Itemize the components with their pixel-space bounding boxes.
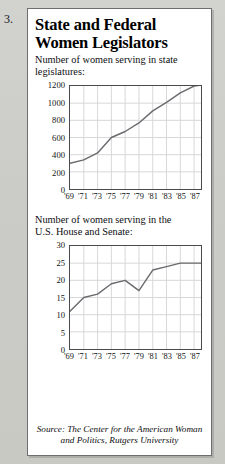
x-tick-label: '87 — [190, 192, 200, 201]
chart-2-line-svg — [70, 246, 201, 349]
chart-1-title: Number of women serving in state legisla… — [35, 54, 204, 77]
y-tick-label: 30 — [56, 240, 65, 250]
y-tick-label: 800 — [52, 115, 65, 125]
x-tick-label: '81 — [148, 192, 158, 201]
x-tick-label: '79 — [134, 352, 144, 361]
x-tick-label: '73 — [92, 352, 102, 361]
chart-2-x-axis-labels: '69'71'73'75'77'79'81'83'85'87 — [69, 351, 202, 367]
headline-line-1: State and Federal — [35, 15, 156, 34]
chart-1-x-axis-labels: '69'71'73'75'77'79'81'83'85'87 — [69, 191, 202, 207]
chart-1-plot-area — [69, 85, 202, 190]
infographic-panel: State and Federal Women Legislators Numb… — [27, 8, 212, 456]
chart-1-line-svg — [70, 86, 201, 189]
y-tick-label: 1200 — [48, 80, 65, 90]
x-tick-label: '69 — [64, 352, 74, 361]
chart-2-y-axis-labels: 051015202530 — [35, 240, 67, 368]
chart-2-title-line-1: Number of women serving in the — [35, 214, 171, 225]
chart-1-y-axis-labels: 020040060080010001200 — [35, 80, 67, 208]
x-tick-label: '71 — [78, 352, 88, 361]
x-tick-label: '71 — [78, 192, 88, 201]
y-tick-label: 400 — [52, 150, 65, 160]
y-tick-label: 600 — [52, 133, 65, 143]
x-tick-label: '79 — [134, 192, 144, 201]
y-tick-label: 10 — [56, 310, 65, 320]
page-background: 3. State and Federal Women Legislators N… — [0, 0, 225, 464]
x-tick-label: '85 — [176, 352, 186, 361]
chart-2-title-line-2: U.S. House and Senate: — [35, 226, 204, 238]
x-tick-label: '85 — [176, 192, 186, 201]
x-tick-label: '83 — [162, 352, 172, 361]
y-tick-label: 25 — [56, 258, 65, 268]
chart-2-plot-area — [69, 245, 202, 350]
chart-state-legislatures: 020040060080010001200 '69'71'73'75'77'79… — [35, 80, 206, 208]
x-tick-label: '83 — [162, 192, 172, 201]
chart-1-title-line-1: Number of women serving in state — [35, 54, 178, 65]
x-tick-label: '69 — [64, 192, 74, 201]
source-line-2: and Politics, Rutgers University — [35, 435, 204, 446]
x-tick-label: '73 — [92, 192, 102, 201]
x-tick-label: '77 — [120, 352, 130, 361]
x-tick-label: '87 — [190, 352, 200, 361]
source-note: Source: The Center for the American Woma… — [35, 424, 204, 446]
y-tick-label: 1000 — [48, 98, 65, 108]
chart-house-and-senate: 051015202530 '69'71'73'75'77'79'81'83'85… — [35, 240, 206, 368]
x-tick-label: '75 — [106, 352, 116, 361]
y-tick-label: 200 — [52, 168, 65, 178]
x-tick-label: '77 — [120, 192, 130, 201]
y-tick-label: 15 — [56, 293, 65, 303]
source-line-1: Source: The Center for the American Woma… — [37, 424, 203, 434]
chart-1-title-line-2: legislatures: — [35, 66, 204, 78]
y-tick-label: 20 — [56, 275, 65, 285]
page-title: State and Federal Women Legislators — [35, 16, 204, 52]
headline-line-2: Women Legislators — [35, 34, 204, 52]
x-tick-label: '75 — [106, 192, 116, 201]
item-number: 3. — [4, 12, 13, 27]
y-tick-label: 5 — [61, 328, 65, 338]
x-tick-label: '81 — [148, 352, 158, 361]
chart-2-title: Number of women serving in the U.S. Hous… — [35, 214, 204, 237]
